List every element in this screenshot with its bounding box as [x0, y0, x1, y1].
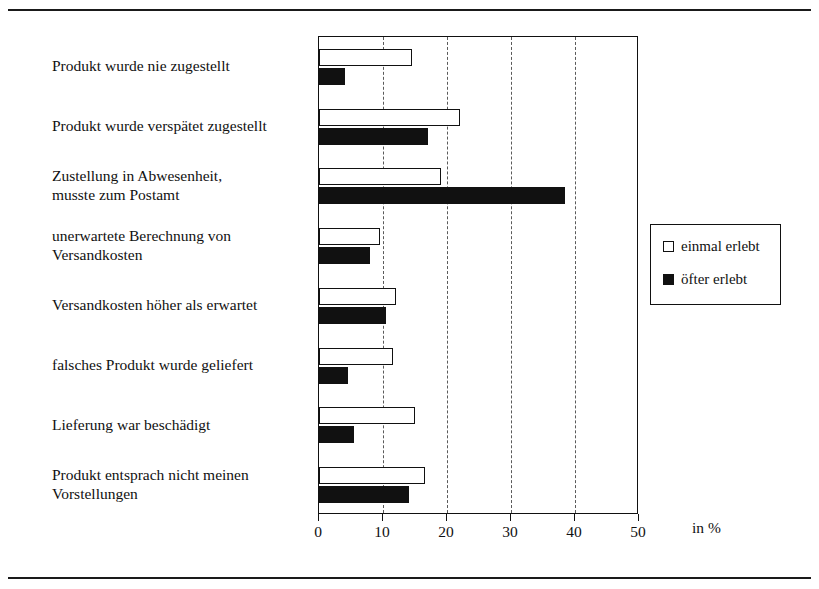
bar-oefter-erlebt-3: [319, 247, 370, 264]
legend-swatch-filled-square-icon: [663, 274, 674, 285]
legend-label: öfter erlebt: [681, 271, 747, 288]
category-label-7: Produkt entsprach nicht meinenVorstellun…: [18, 465, 318, 503]
category-label-5: falsches Produkt wurde geliefert: [18, 355, 318, 374]
bar-einmal-erlebt-4: [319, 288, 396, 305]
x-axis: 01020304050: [318, 514, 638, 515]
plot-area: [318, 36, 638, 514]
top-divider-rule: [8, 9, 811, 11]
legend-item-oefter-erlebt: öfter erlebt: [663, 271, 747, 288]
category-label-line: musste zum Postamt: [18, 185, 308, 204]
bar-oefter-erlebt-2: [319, 187, 565, 204]
category-label-1: Produkt wurde verspätet zugestellt: [18, 116, 318, 135]
x-tick-30: [510, 514, 511, 521]
x-tick-0: [318, 514, 319, 521]
bar-einmal-erlebt-7: [319, 467, 425, 484]
category-label-6: Lieferung war beschädigt: [18, 415, 318, 434]
bar-einmal-erlebt-1: [319, 109, 460, 126]
bar-oefter-erlebt-0: [319, 68, 345, 85]
bar-oefter-erlebt-7: [319, 486, 409, 503]
x-tick-label-20: 20: [438, 523, 454, 541]
legend-label: einmal erlebt: [681, 238, 760, 255]
legend-swatch-open-square-icon: [663, 241, 674, 252]
category-label-line: Versandkosten höher als erwartet: [18, 295, 308, 314]
category-label-line: Versandkosten: [18, 245, 308, 264]
x-tick-10: [382, 514, 383, 521]
x-tick-label-40: 40: [566, 523, 582, 541]
bar-einmal-erlebt-2: [319, 168, 441, 185]
bar-oefter-erlebt-4: [319, 307, 386, 324]
bar-oefter-erlebt-1: [319, 128, 428, 145]
x-tick-50: [638, 514, 639, 521]
category-label-line: Zustellung in Abwesenheit,: [18, 166, 308, 185]
x-tick-label-0: 0: [314, 523, 322, 541]
legend: einmal erlebt öfter erlebt: [650, 224, 781, 305]
x-axis-unit-label: in %: [692, 519, 721, 537]
category-label-line: Produkt wurde verspätet zugestellt: [18, 116, 308, 135]
bar-oefter-erlebt-5: [319, 367, 348, 384]
category-label-line: unerwartete Berechnung von: [18, 226, 308, 245]
figure: Produkt wurde nie zugestelltProdukt wurd…: [0, 0, 819, 589]
category-label-line: Produkt wurde nie zugestellt: [18, 56, 308, 75]
bar-einmal-erlebt-6: [319, 407, 415, 424]
category-label-3: unerwartete Berechnung vonVersandkosten: [18, 226, 318, 264]
category-label-line: Lieferung war beschädigt: [18, 415, 308, 434]
bar-series-container: [319, 37, 637, 513]
bar-einmal-erlebt-0: [319, 49, 412, 66]
category-label-line: falsches Produkt wurde geliefert: [18, 355, 308, 374]
category-label-0: Produkt wurde nie zugestellt: [18, 56, 318, 75]
category-label-line: Vorstellungen: [18, 484, 308, 503]
bar-oefter-erlebt-6: [319, 426, 354, 443]
bar-einmal-erlebt-3: [319, 228, 380, 245]
x-tick-label-50: 50: [630, 523, 646, 541]
category-label-4: Versandkosten höher als erwartet: [18, 295, 318, 314]
x-tick-20: [446, 514, 447, 521]
x-tick-label-30: 30: [502, 523, 518, 541]
x-tick-40: [574, 514, 575, 521]
bottom-divider-rule: [8, 577, 811, 579]
bar-einmal-erlebt-5: [319, 348, 393, 365]
x-tick-label-10: 10: [374, 523, 390, 541]
legend-item-einmal-erlebt: einmal erlebt: [663, 238, 760, 255]
category-label-2: Zustellung in Abwesenheit,musste zum Pos…: [18, 166, 318, 204]
category-label-line: Produkt entsprach nicht meinen: [18, 465, 308, 484]
